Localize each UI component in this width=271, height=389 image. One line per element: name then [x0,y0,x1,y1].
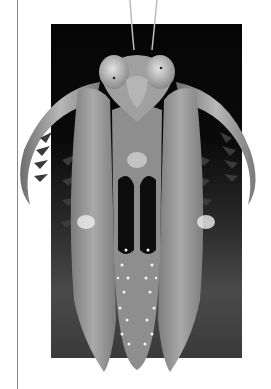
left-femur [71,88,116,372]
right-eye [145,55,175,89]
right-cavity [140,176,156,254]
mantis-illustration [0,0,271,389]
antenna-right [152,0,157,50]
left-eye [99,55,129,89]
antenna-left [130,0,134,50]
left-cavity [118,176,134,254]
right-femur [158,88,203,372]
